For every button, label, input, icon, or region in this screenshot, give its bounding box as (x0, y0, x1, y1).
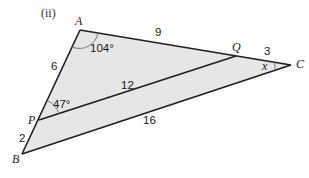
vertex-label-a: A (74, 14, 83, 28)
length-qc: 3 (264, 45, 270, 57)
part-label: (ii) (41, 6, 56, 20)
vertex-label-b: B (12, 152, 20, 166)
angle-label-p: 47° (53, 98, 70, 110)
length-aq: 9 (155, 26, 161, 38)
length-pq: 12 (121, 79, 134, 91)
vertex-label-q: Q (232, 40, 241, 54)
vertex-label-c: C (296, 57, 305, 71)
angle-label-a: 104° (90, 42, 114, 54)
angle-label-c: x (261, 59, 268, 73)
vertex-label-p: P (27, 113, 36, 127)
length-bc: 16 (143, 114, 156, 126)
length-ap: 6 (51, 60, 57, 72)
triangle-abc-fill (22, 30, 291, 154)
length-pb: 2 (19, 132, 25, 144)
triangle-diagram: (ii) A Q C P B 6 2 9 3 12 16 104° 47° x (0, 0, 309, 178)
